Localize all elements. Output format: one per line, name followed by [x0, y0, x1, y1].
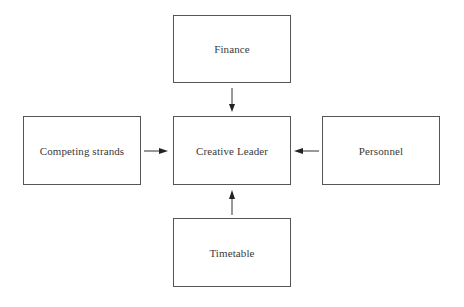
arrow-competing-to-center [144, 148, 168, 154]
arrows-layer [0, 0, 464, 307]
arrow-timetable-to-center [229, 190, 235, 215]
arrow-finance-to-center [229, 88, 235, 112]
arrow-personnel-to-center [294, 148, 319, 154]
